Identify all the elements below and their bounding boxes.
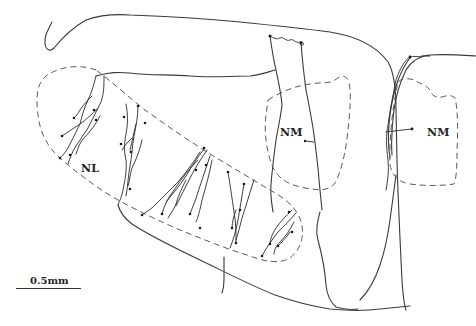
nl-arbor-2 (118, 104, 146, 205)
nm-left-terminal-squiggle (270, 36, 303, 46)
nm-left-collateral (305, 141, 314, 142)
nm-left-region-label: NM (280, 126, 303, 139)
scale-bar (16, 288, 81, 289)
terminal-bouton (300, 42, 303, 45)
nm-left-axon-b (301, 42, 322, 210)
central-column-left (317, 212, 358, 309)
terminal-bouton (304, 140, 306, 142)
nm-left-region-outline (265, 76, 350, 189)
right-lobe-outer (392, 55, 476, 155)
fiber-tract-upper (96, 70, 275, 77)
central-column-right (360, 175, 396, 300)
ventral-septum (222, 257, 224, 293)
ventral-contour (118, 205, 410, 311)
nl-arbor-1 (59, 76, 104, 164)
nm-right-axon (386, 57, 410, 190)
nl-region-label: NL (81, 162, 99, 175)
nm-left-axon-a (270, 36, 282, 212)
nm-right-collateral (386, 129, 412, 132)
terminal-bouton (411, 128, 414, 131)
nl-arbor-5 (261, 210, 296, 257)
nl-region-outline (37, 67, 303, 262)
terminal-bouton (269, 35, 272, 38)
scale-bar-label: 0.5mm (30, 275, 69, 286)
nm-right-region-label: NM (427, 126, 450, 139)
tracing-figure (0, 0, 476, 326)
nl-arbor-4 (227, 171, 254, 248)
nm-right-top-squiggle (410, 56, 430, 57)
